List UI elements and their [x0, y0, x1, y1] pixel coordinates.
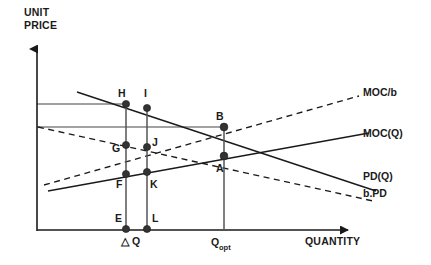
curve-moc-q [48, 133, 369, 191]
y-axis-title-line2: PRICE [24, 19, 57, 31]
point-marker-i [143, 104, 150, 111]
tick-delta-symbol: △ [120, 235, 130, 247]
point-label-i: I [144, 87, 147, 99]
point-marker-b [220, 123, 228, 131]
point-marker-g [122, 141, 129, 148]
curve-label-moc-over-b: MOC/b [363, 86, 397, 98]
curve-label-b-pd: b.PD [363, 187, 387, 199]
point-label-k: K [150, 178, 158, 190]
point-marker-f [122, 170, 129, 177]
y-axis-title-line1: UNIT [24, 6, 50, 18]
curve-moc-over-b [44, 96, 359, 185]
point-label-g: G [112, 142, 120, 154]
curve-label-pd-q: PD(Q) [363, 170, 393, 182]
point-label-h: H [118, 87, 126, 99]
point-marker-j [143, 143, 150, 150]
point-marker-a [220, 152, 228, 160]
point-label-j: J [152, 136, 158, 148]
curve-b-pd [38, 127, 373, 201]
point-label-a: A [216, 162, 224, 174]
point-marker-k [143, 168, 150, 175]
point-marker-l [143, 225, 150, 232]
diagram-canvas: UNIT PRICE QUANTITY MOC/b MOC(Q) PD(Q) b… [0, 0, 431, 265]
point-marker-h [122, 100, 129, 107]
point-label-l: L [152, 212, 159, 224]
point-marker-e [122, 225, 129, 232]
economics-diagram: UNIT PRICE QUANTITY MOC/b MOC(Q) PD(Q) b… [0, 0, 431, 265]
tick-delta-q: Q [132, 235, 140, 247]
point-label-e: E [115, 212, 122, 224]
curve-pd-q [77, 92, 376, 191]
point-label-f: F [116, 178, 123, 190]
point-label-b: B [216, 110, 224, 122]
curve-label-moc-q: MOC(Q) [363, 127, 403, 139]
tick-q-opt-sub: opt [219, 243, 231, 252]
x-axis-title: QUANTITY [305, 235, 360, 247]
tick-q-opt-main: Q [211, 236, 219, 248]
